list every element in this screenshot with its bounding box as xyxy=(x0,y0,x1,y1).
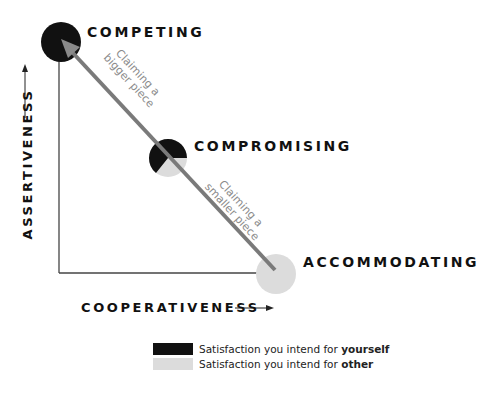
label-accommodating: ACCOMMODATING xyxy=(303,254,479,270)
up-arrow-icon xyxy=(22,64,28,72)
cooperativeness-axis-label: COOPERATIVENESS xyxy=(81,300,260,315)
legend-swatch-yourself xyxy=(153,343,193,355)
legend-text-yourself: Satisfaction you intend for yourself xyxy=(199,343,389,355)
legend-item-yourself: Satisfaction you intend for yourself xyxy=(153,343,389,355)
label-competing: COMPETING xyxy=(87,24,204,40)
diagonal-arrow-line xyxy=(72,52,275,270)
label-compromising: COMPROMISING xyxy=(194,138,352,154)
accommodating-circle xyxy=(256,254,296,294)
right-arrow-icon xyxy=(266,305,274,311)
assertiveness-axis-label: ASSERTIVENESS xyxy=(20,120,35,240)
legend-item-other: Satisfaction you intend for other xyxy=(153,358,373,370)
legend-swatch-other xyxy=(153,358,193,370)
legend-text-other: Satisfaction you intend for other xyxy=(199,358,373,370)
